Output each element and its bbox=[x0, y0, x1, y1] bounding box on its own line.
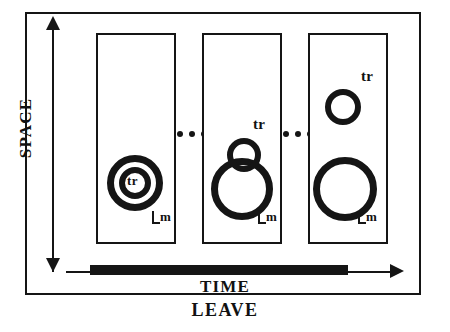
figure-root: SPACE tr m tr m tr m TIME LEAVE bbox=[0, 0, 450, 332]
time-axis-arrowhead-right bbox=[390, 264, 404, 278]
figure-caption: LEAVE bbox=[165, 300, 285, 321]
panel-1-m-label: m bbox=[160, 209, 171, 225]
panel-2-tr-label: tr bbox=[253, 116, 265, 133]
panel-3-m-marker: m bbox=[358, 209, 384, 227]
panel-3-m-label: m bbox=[366, 209, 377, 225]
panel-2-small-ring bbox=[227, 138, 261, 172]
ellipsis-dot bbox=[177, 131, 183, 137]
space-axis-arrowhead-up bbox=[46, 16, 60, 30]
panel-2-m-marker: m bbox=[258, 209, 284, 227]
ellipsis-dot bbox=[189, 131, 195, 137]
m-marker-corner-icon bbox=[258, 211, 266, 224]
space-axis-arrowhead-down bbox=[46, 258, 60, 272]
m-marker-corner-icon bbox=[152, 211, 160, 224]
panel-3-small-ring bbox=[325, 89, 361, 125]
time-axis-bold-bar bbox=[90, 265, 348, 275]
space-axis-line bbox=[52, 22, 54, 272]
panel-2-m-label: m bbox=[266, 209, 277, 225]
panel-1-tr-label: tr bbox=[127, 173, 138, 189]
panel-3-tr-label: tr bbox=[361, 68, 373, 85]
ellipsis-dot bbox=[295, 131, 301, 137]
ellipsis-dot bbox=[283, 131, 289, 137]
time-axis-label: TIME bbox=[170, 277, 280, 297]
space-axis-label: SPACE bbox=[16, 78, 36, 178]
m-marker-corner-icon bbox=[358, 211, 366, 224]
panel-1-m-marker: m bbox=[152, 209, 178, 227]
